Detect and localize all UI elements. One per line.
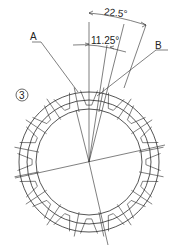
view-number: 3 (19, 90, 25, 101)
gear-drawing: 3 A B 22.5° 11.25° (0, 0, 170, 251)
center-lines (15, 22, 165, 245)
label-b: B (155, 40, 162, 51)
dim-22-5-text: 22.5° (104, 6, 128, 19)
leader-lines (32, 42, 168, 96)
label-a: A (30, 31, 37, 42)
dim-11-25-text: 11.25° (91, 35, 119, 46)
